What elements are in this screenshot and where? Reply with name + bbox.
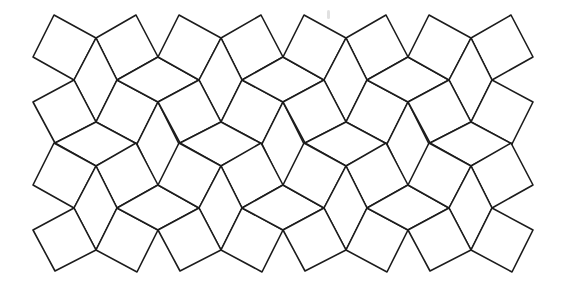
tile-group xyxy=(33,15,533,272)
smudge-mark xyxy=(327,10,330,19)
tiling-figure xyxy=(0,0,565,296)
scan-artifacts xyxy=(327,10,330,19)
